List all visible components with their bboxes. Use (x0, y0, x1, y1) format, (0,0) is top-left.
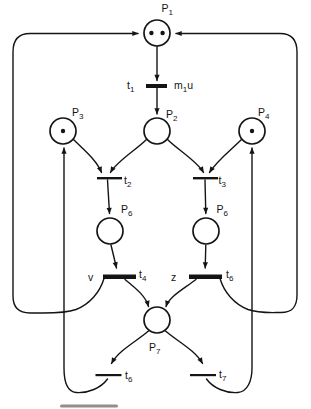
label-t4: t4 (139, 268, 147, 283)
place-p4 (239, 118, 265, 144)
arc-p3-to-t2 (74, 140, 102, 173)
label-p2: P2 (166, 108, 178, 123)
label-t1: t1 (127, 79, 135, 94)
label-p1: P1 (162, 2, 174, 17)
place-p1 (144, 20, 170, 46)
label-t5-control: z (171, 271, 176, 283)
arc-t2-to-p6-left (108, 180, 110, 214)
label-p7: P7 (149, 341, 161, 356)
arc-p7-to-t7 (166, 331, 203, 364)
label-t4-control: v (88, 271, 94, 283)
arc-t5-to-p7 (166, 280, 196, 307)
label-p4: P4 (258, 106, 270, 121)
place-p6-right (193, 218, 219, 244)
transition-t1-bar (146, 84, 167, 88)
place-p3 (50, 118, 76, 144)
petri-net-svg: P1 t1 m1u P2 P3 P4 t2 t3 P6 P6 v t4 z t6… (0, 0, 311, 409)
place-p6-left-circle (97, 218, 123, 244)
token-dot (250, 129, 254, 133)
label-t6: t6 (125, 369, 133, 384)
token-dot (149, 31, 153, 35)
place-p2-circle (144, 118, 170, 144)
transition-t6-bar (96, 374, 122, 376)
arc-t4-to-p1-outer-left (13, 34, 138, 314)
petri-net-figure: P1 t1 m1u P2 P3 P4 t2 t3 P6 P6 v t4 z t6… (0, 0, 311, 409)
transition-t2-bar (97, 177, 122, 179)
label-p6-right: P6 (217, 203, 229, 218)
place-p7-circle (144, 307, 170, 333)
arc-t7-to-p4 (207, 148, 253, 393)
token-dot (61, 129, 65, 133)
arc-t4-to-p7 (125, 280, 149, 307)
transition-t3-bar (193, 177, 218, 179)
arc-t5-to-p1-outer-right (176, 34, 297, 313)
place-p2 (144, 118, 170, 144)
arc-p2-to-t2 (111, 140, 147, 173)
transition-t7-bar (190, 374, 216, 376)
arc-p7-to-t6 (112, 331, 149, 364)
label-t1-control: m1u (174, 79, 193, 94)
arc-t3-to-p6-right (205, 180, 206, 214)
label-t5: t6 (226, 268, 234, 283)
arc-p2-to-t3 (168, 140, 204, 173)
arc-p4-to-t3 (210, 140, 242, 173)
place-p6-right-circle (193, 218, 219, 244)
transition-t5-bar (189, 275, 222, 280)
label-p6-left: P6 (121, 203, 133, 218)
label-t2: t2 (124, 174, 132, 189)
label-p3: P3 (72, 106, 84, 121)
arc-p6-right-to-t5 (205, 245, 206, 268)
arc-p6-left-to-t4 (111, 245, 117, 268)
transition-t4-bar (103, 275, 136, 280)
label-t7: t7 (219, 368, 227, 383)
place-p1-circle (144, 20, 170, 46)
place-p7 (144, 307, 170, 333)
scan-artifact (60, 405, 118, 408)
token-dot (160, 31, 164, 35)
place-p6-left (97, 218, 123, 244)
label-t3: t3 (219, 174, 227, 189)
arc-t6-to-p3 (64, 148, 108, 393)
